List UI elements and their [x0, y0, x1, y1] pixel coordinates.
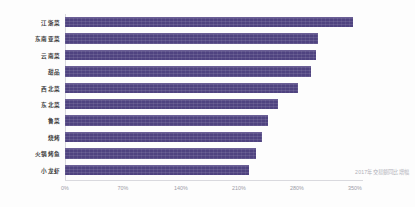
- bar: [65, 99, 278, 110]
- bar: [65, 17, 353, 28]
- x-axis-line: [65, 180, 363, 181]
- category-label: 江浙菜: [0, 19, 60, 27]
- bar: [65, 165, 249, 176]
- x-axis-tick-label: 0%: [61, 185, 69, 191]
- bar-chart-figure: 0%70%140%210%280%350% 2017年交易额同比增幅 江浙菜东南…: [0, 0, 415, 207]
- plot-area: [65, 14, 355, 178]
- bar-row: [65, 99, 355, 110]
- bar-row: [65, 66, 355, 77]
- bar-row: [65, 132, 355, 143]
- bar-row: [65, 17, 355, 28]
- x-axis-tick-label: 70%: [118, 185, 129, 191]
- category-label: 东北菜: [0, 101, 60, 109]
- bar: [65, 115, 268, 126]
- bar-row: [65, 33, 355, 44]
- category-label: 云南菜: [0, 52, 60, 60]
- x-axis-tick-label: 140%: [174, 185, 188, 191]
- bar-row: [65, 50, 355, 61]
- bar: [65, 148, 256, 159]
- bar: [65, 33, 318, 44]
- category-label: 东南亚菜: [0, 35, 60, 43]
- bar: [65, 50, 316, 61]
- category-label: 西北菜: [0, 85, 60, 93]
- bar-row: [65, 115, 355, 126]
- bar: [65, 66, 311, 77]
- bar-row: [65, 148, 355, 159]
- category-label: 烧烤: [0, 134, 60, 142]
- category-label: 甜品: [0, 68, 60, 76]
- bar-row: [65, 165, 355, 176]
- x-axis-tick-label: 350%: [348, 185, 362, 191]
- bar-rows: [65, 14, 355, 178]
- category-label: 小龙虾: [0, 167, 60, 175]
- category-label: 鲁菜: [0, 117, 60, 125]
- bar: [65, 132, 262, 143]
- bar-row: [65, 83, 355, 94]
- x-axis-tick-label: 210%: [232, 185, 246, 191]
- bar: [65, 83, 298, 94]
- chart-caption: 2017年交易额同比增幅: [355, 168, 409, 175]
- category-label: 火锅烤鱼: [0, 150, 60, 158]
- x-axis-tick-label: 280%: [290, 185, 304, 191]
